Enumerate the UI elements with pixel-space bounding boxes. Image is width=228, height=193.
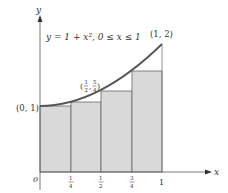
svg-text:1: 1 <box>99 175 103 181</box>
tick-label-three-quarters: 3 4 <box>130 175 135 189</box>
svg-text:4: 4 <box>69 183 73 189</box>
tick-label-half: 1 2 <box>99 175 104 189</box>
x-axis-label: x <box>214 167 219 177</box>
function-title: y = 1 + x², 0 ≤ x ≤ 1 <box>45 32 141 42</box>
svg-text:4: 4 <box>130 183 134 189</box>
point-label-1-2: (1, 2) <box>150 29 173 39</box>
x-tick-labels: 0 1 4 1 2 3 4 1 <box>33 175 164 189</box>
tick-label-0: 0 <box>33 175 38 184</box>
point-label-half-five-quarters: ( 1 2 , 5 4 ) <box>80 79 100 93</box>
lower-sum-rectangles <box>40 71 162 172</box>
rectangle-2 <box>71 102 101 172</box>
svg-text:2: 2 <box>85 87 89 93</box>
svg-text:1: 1 <box>69 175 73 181</box>
point-label-0-1: (0, 1) <box>16 103 39 113</box>
x-axis-arrow-icon <box>205 170 212 175</box>
rectangle-3 <box>101 91 132 172</box>
riemann-sum-diagram: y x y = 1 + x², 0 ≤ x ≤ 1 (0, 1) (1, 2) … <box>0 0 228 193</box>
svg-text:1: 1 <box>85 79 89 85</box>
svg-text:3: 3 <box>130 175 134 181</box>
svg-text:): ) <box>97 82 100 91</box>
rectangle-4 <box>132 71 162 172</box>
y-axis-arrow-icon <box>38 15 43 22</box>
tick-label-1: 1 <box>159 178 164 187</box>
svg-text:(: ( <box>80 82 83 91</box>
svg-text:,: , <box>89 82 92 91</box>
tick-label-quarter: 1 4 <box>69 175 74 189</box>
svg-text:2: 2 <box>99 183 103 189</box>
rectangle-1 <box>40 106 71 172</box>
y-axis-label: y <box>35 5 42 15</box>
